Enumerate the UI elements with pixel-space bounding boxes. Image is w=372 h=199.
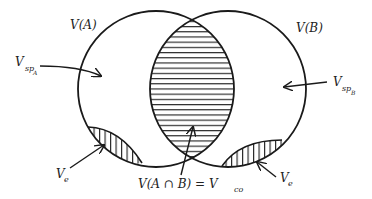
svg-text:V(A ∩ B) = V: V(A ∩ B) = V — [138, 177, 219, 191]
label-circle-a: V(A) — [70, 18, 97, 32]
svg-text:V: V — [15, 55, 25, 69]
svg-text:sp: sp — [342, 84, 351, 93]
label-circle-b: V(B) — [296, 21, 323, 35]
svg-text:co: co — [234, 185, 243, 194]
venn-diagram: V(A) V(B) V sp A V sp B V e V e V(A ∩ B)… — [0, 0, 372, 199]
dead-end-region-right — [222, 140, 290, 175]
arrow-ve-left — [70, 145, 104, 168]
label-intersection: V(A ∩ B) = V co — [138, 177, 243, 194]
label-vsp-a: V sp A — [15, 55, 38, 76]
svg-text:e: e — [64, 175, 69, 184]
svg-text:e: e — [288, 179, 293, 188]
svg-text:B: B — [350, 89, 356, 96]
arrow-vsp-a — [40, 66, 101, 76]
label-ve-left: V e — [56, 167, 69, 184]
label-ve-right: V e — [280, 171, 293, 188]
arrow-ve-right — [257, 162, 276, 177]
svg-text:A: A — [32, 69, 38, 76]
label-vsp-b: V sp B — [333, 75, 356, 96]
